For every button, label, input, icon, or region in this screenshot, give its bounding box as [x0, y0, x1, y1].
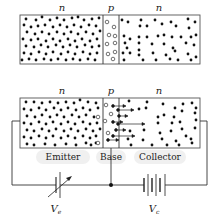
top-label-n-right: n	[156, 2, 162, 13]
emitter-label: Emitter	[46, 152, 82, 162]
variable-arrow-icon	[48, 178, 70, 197]
bottom-label-n-left: n	[59, 85, 65, 96]
collector-label: Collector	[139, 152, 181, 162]
ve-label: Ve	[51, 203, 62, 215]
top-semiconductor-block	[20, 15, 200, 64]
battery-vc	[144, 174, 165, 196]
vc-label: Vc	[149, 203, 160, 215]
bottom-label-p: p	[108, 85, 115, 96]
bottom-label-n-right: n	[156, 85, 162, 96]
top-label-p: p	[108, 2, 115, 13]
transistor-diagram: n p n	[0, 0, 224, 219]
bottom-transistor-circuit: n p n	[12, 85, 207, 215]
top-transistor: n p n	[20, 2, 200, 64]
junction-node	[109, 183, 113, 187]
top-label-n-left: n	[59, 2, 65, 13]
